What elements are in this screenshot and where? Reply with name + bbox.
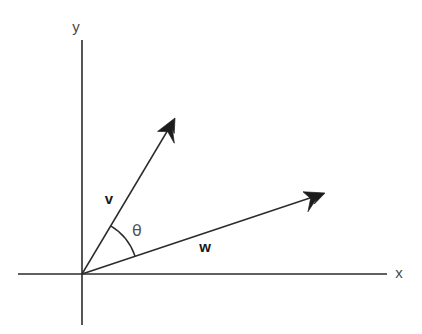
vector-w-label: w <box>198 238 211 255</box>
diagram-background <box>0 0 422 334</box>
diagram-canvas: y x v w θ <box>0 0 422 334</box>
vector-angle-diagram: y x v w θ <box>0 0 422 334</box>
angle-theta-label: θ <box>132 221 142 240</box>
vector-v-label: v <box>105 190 114 207</box>
y-axis-label: y <box>72 18 80 35</box>
x-axis-label: x <box>395 264 403 281</box>
